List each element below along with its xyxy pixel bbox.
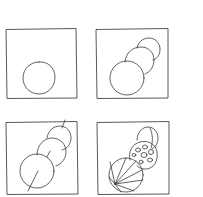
panel-frame [6,29,77,99]
sketch-tutorial-figure [0,0,203,197]
spot [136,148,141,152]
large-circle [20,154,54,188]
panel-step-2 [96,29,168,99]
panel-frame [96,29,168,99]
spot [148,158,153,162]
small-circle-seam [150,128,152,148]
spot [143,145,148,149]
middle-circle [125,47,154,74]
circle-shape [23,62,55,94]
spot [141,153,147,158]
panel-frame [97,122,169,195]
spot [149,150,154,155]
large-circle [110,61,144,95]
spot [132,154,136,157]
panel-frame [6,122,78,195]
panel-step-1 [6,29,77,99]
panel-step-3 [6,120,78,195]
panel-step-4 [97,122,169,195]
spot [139,160,143,164]
axis-guideline [47,151,50,157]
large-circle [109,158,143,192]
